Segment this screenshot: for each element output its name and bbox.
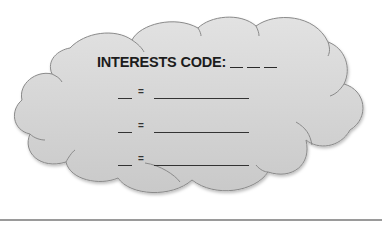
equals-sign: = bbox=[138, 153, 144, 164]
divider-line bbox=[0, 219, 382, 221]
meaning-blank bbox=[154, 98, 249, 99]
code-blank-3 bbox=[264, 67, 277, 68]
meaning-blank bbox=[154, 165, 249, 166]
title-label: INTERESTS CODE: bbox=[97, 54, 226, 70]
code-blank-2 bbox=[247, 67, 260, 68]
interests-code-title: INTERESTS CODE: bbox=[97, 54, 277, 70]
meaning-blank bbox=[154, 132, 249, 133]
equals-sign: = bbox=[138, 120, 144, 131]
cloud-shape bbox=[0, 0, 382, 232]
code-blank-1 bbox=[230, 67, 243, 68]
code-letter-blank bbox=[118, 98, 132, 99]
code-letter-blank bbox=[118, 132, 132, 133]
code-letter-blank bbox=[118, 165, 132, 166]
equals-sign: = bbox=[138, 86, 144, 97]
